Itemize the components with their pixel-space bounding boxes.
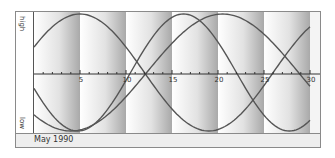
- x-tick-label: 10: [123, 76, 132, 84]
- biorhythm-chart: high low 51015202530 May 1990: [15, 11, 321, 148]
- background-band: [264, 12, 310, 133]
- x-tick-label: 25: [261, 76, 270, 84]
- x-tick-label: 20: [215, 76, 224, 84]
- footer-bar: May 1990: [16, 133, 320, 147]
- high-label: high: [18, 16, 26, 31]
- low-label: low: [18, 117, 26, 129]
- background-band: [126, 12, 172, 133]
- x-tick-label: 5: [79, 76, 83, 84]
- x-tick-label: 15: [169, 76, 178, 84]
- plot-area: 51015202530: [33, 12, 320, 133]
- background-band: [34, 12, 80, 133]
- x-tick-label: 30: [307, 76, 316, 84]
- y-label-column: high low: [16, 12, 34, 133]
- month-label: May 1990: [34, 135, 73, 144]
- background-band: [172, 12, 218, 133]
